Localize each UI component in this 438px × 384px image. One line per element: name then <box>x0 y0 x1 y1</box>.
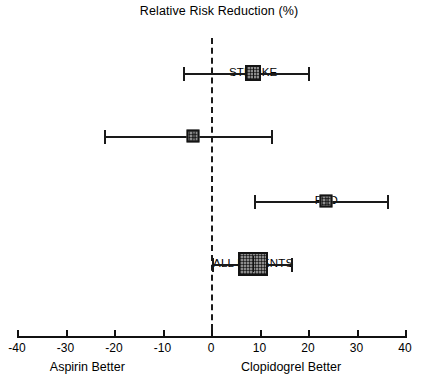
x-tick-label: -20 <box>105 341 122 355</box>
point-estimate-marker <box>238 252 268 276</box>
forest-row: MI <box>0 115 438 159</box>
x-tick-label: 20 <box>301 341 314 355</box>
ci-cap-lower <box>254 195 256 209</box>
marker-center-tick <box>253 256 254 271</box>
point-estimate-marker <box>187 130 200 143</box>
ci-cap-upper <box>291 258 293 272</box>
axis-label-left: Aspirin Better <box>50 360 125 374</box>
forest-plot-figure: Relative Risk Reduction (%) STROKEMIPADA… <box>0 0 438 384</box>
x-tick <box>66 330 68 338</box>
ci-cap-lower <box>212 258 214 272</box>
x-tick-label: 10 <box>253 341 266 355</box>
marker-center-tick <box>253 68 254 77</box>
x-tick <box>211 330 213 338</box>
plot-area: STROKEMIPADALL PATIENTS <box>0 0 438 330</box>
marker-center-tick <box>193 133 194 140</box>
x-tick-label: -30 <box>57 341 74 355</box>
x-tick <box>357 330 359 338</box>
x-tick <box>163 330 165 338</box>
forest-row: ALL PATIENTS <box>0 243 438 287</box>
x-tick <box>308 330 310 338</box>
x-tick-label: -10 <box>154 341 171 355</box>
axis-label-right: Clopidogrel Better <box>241 360 341 374</box>
point-estimate-marker <box>245 65 261 81</box>
x-tick-label: 40 <box>398 341 411 355</box>
x-tick-label: 0 <box>208 341 215 355</box>
marker-center-tick <box>326 198 327 205</box>
forest-row: STROKE <box>0 52 438 96</box>
x-tick-label: -40 <box>8 341 25 355</box>
x-tick <box>17 330 19 338</box>
forest-row: PAD <box>0 180 438 224</box>
ci-cap-lower <box>183 67 185 81</box>
x-tick <box>260 330 262 338</box>
ci-cap-upper <box>387 195 389 209</box>
ci-cap-upper <box>308 67 310 81</box>
point-estimate-marker <box>320 195 333 208</box>
ci-cap-upper <box>271 130 273 144</box>
x-tick <box>405 330 407 338</box>
x-axis: -40-30-20-10010203040 Aspirin Better Clo… <box>0 330 438 384</box>
x-tick-label: 30 <box>350 341 363 355</box>
ci-cap-lower <box>104 130 106 144</box>
x-tick <box>114 330 116 338</box>
